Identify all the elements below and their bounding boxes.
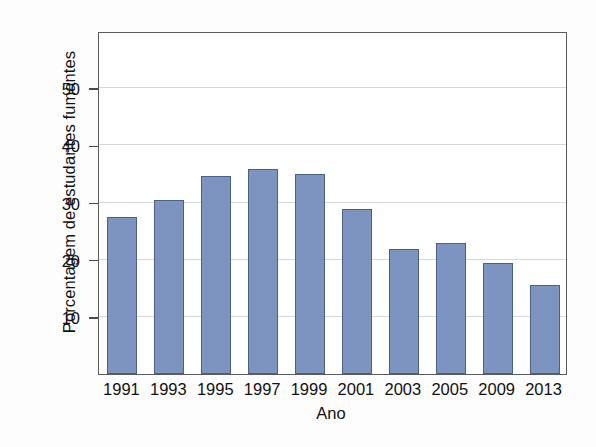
bar <box>248 169 278 374</box>
bar <box>389 249 419 374</box>
bar-chart: Porcentagem de estudantes fumantes 10203… <box>0 0 596 447</box>
y-tick-mark <box>89 146 98 148</box>
bar <box>154 200 184 374</box>
y-tick-label: 40 <box>22 137 80 156</box>
bar <box>483 263 513 374</box>
x-tick-label: 2001 <box>338 380 375 399</box>
x-tick-label: 1997 <box>244 380 281 399</box>
x-tick-label: 2005 <box>431 380 468 399</box>
bar <box>530 285 560 374</box>
x-axis-title: Ano <box>95 404 567 423</box>
y-tick-label: 30 <box>22 194 80 213</box>
y-tick-label: 10 <box>22 308 80 327</box>
plot-area <box>98 32 567 375</box>
y-tick-label: 50 <box>22 80 80 99</box>
x-tick-label: 2013 <box>525 380 562 399</box>
x-tick-label: 1993 <box>150 380 187 399</box>
bar <box>107 217 137 374</box>
x-tick-label: 1995 <box>197 380 234 399</box>
gridline <box>99 87 566 88</box>
y-tick-mark <box>89 317 98 319</box>
x-tick-label: 2003 <box>384 380 421 399</box>
x-tick-label: 1999 <box>291 380 328 399</box>
bar <box>436 243 466 374</box>
y-tick-mark <box>89 88 98 90</box>
bar <box>201 176 231 374</box>
x-tick-label: 2009 <box>478 380 515 399</box>
y-tick-mark <box>89 260 98 262</box>
gridline <box>99 144 566 145</box>
bar <box>295 174 325 374</box>
y-tick-mark <box>89 203 98 205</box>
x-tick-label: 1991 <box>103 380 140 399</box>
bar <box>342 209 372 374</box>
y-tick-label: 20 <box>22 251 80 270</box>
